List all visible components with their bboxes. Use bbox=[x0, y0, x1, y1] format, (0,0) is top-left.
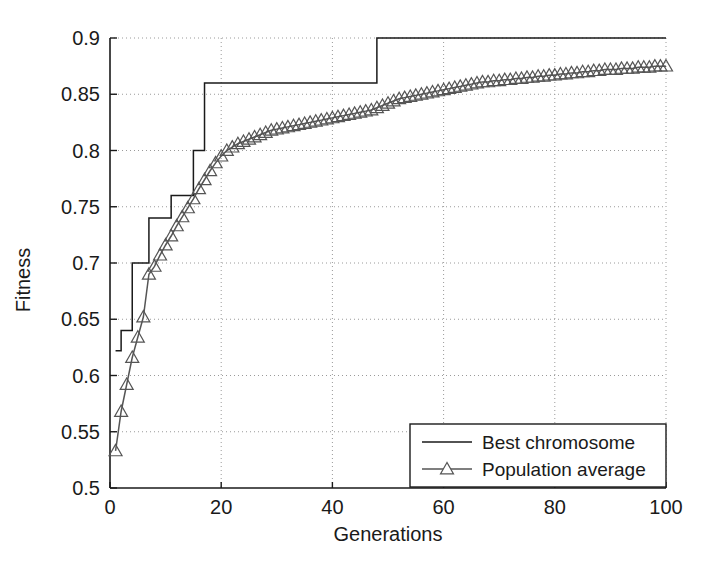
y-tick-label: 0.5 bbox=[72, 477, 100, 499]
y-tick-label: 0.65 bbox=[61, 308, 100, 330]
x-tick-label: 60 bbox=[432, 496, 454, 518]
y-axis-label: Fitness bbox=[12, 248, 34, 312]
y-tick-label: 0.8 bbox=[72, 140, 100, 162]
x-axis-label: Generations bbox=[334, 523, 443, 545]
y-tick-label: 0.55 bbox=[61, 421, 100, 443]
x-tick-label: 80 bbox=[544, 496, 566, 518]
x-tick-label: 40 bbox=[321, 496, 343, 518]
legend-label: Population average bbox=[482, 459, 646, 480]
fitness-line-chart: 020406080100 0.50.550.60.650.70.750.80.8… bbox=[0, 0, 718, 567]
x-tick-label: 20 bbox=[210, 496, 232, 518]
legend-label: Best chromosome bbox=[482, 432, 635, 453]
y-tick-label: 0.85 bbox=[61, 83, 100, 105]
chart-legend: Best chromosomePopulation average bbox=[410, 424, 666, 487]
x-tick-label: 0 bbox=[104, 496, 115, 518]
y-tick-label: 0.6 bbox=[72, 365, 100, 387]
y-tick-label: 0.75 bbox=[61, 196, 100, 218]
y-tick-label: 0.9 bbox=[72, 27, 100, 49]
x-tick-label: 100 bbox=[649, 496, 682, 518]
chart-container: 020406080100 0.50.550.60.650.70.750.80.8… bbox=[0, 0, 718, 567]
y-tick-label: 0.7 bbox=[72, 252, 100, 274]
